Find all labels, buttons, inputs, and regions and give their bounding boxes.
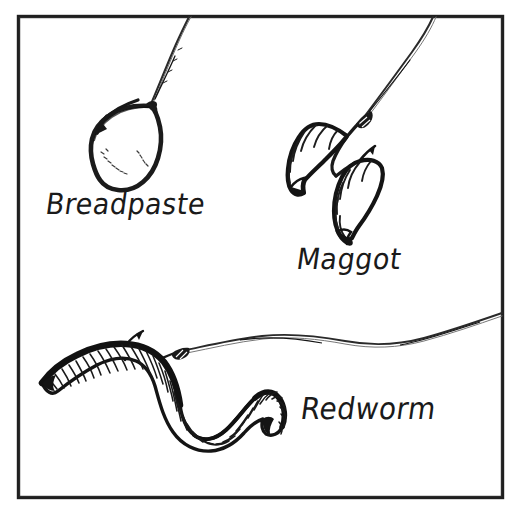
- illustration-page: Breadpaste Maggot Redworm: [0, 0, 515, 516]
- redworm-bait: [42, 313, 502, 451]
- maggot-bait: [288, 17, 436, 246]
- bait-illustration: [0, 0, 515, 516]
- label-redworm: Redworm: [298, 391, 438, 427]
- label-maggot: Maggot: [295, 242, 404, 275]
- breadpaste-body: [91, 106, 161, 190]
- breadpaste-fishing-line: [151, 17, 191, 104]
- maggot-hook-knot: [345, 111, 373, 139]
- redworm-body: [42, 344, 286, 451]
- breadpaste-bait: [91, 17, 191, 190]
- redworm-hook-knot: [172, 348, 190, 360]
- maggot-fishing-line: [364, 17, 436, 118]
- redworm-fishing-line: [186, 313, 502, 353]
- label-breadpaste: Breadpaste: [44, 187, 208, 220]
